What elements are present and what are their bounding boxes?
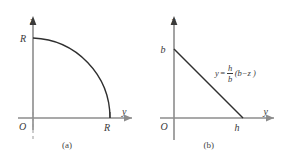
- y-axis-label: y: [122, 107, 126, 117]
- panel-b-graphic: [142, 0, 283, 163]
- linear-function-line: [174, 49, 243, 118]
- y-axis-label: y: [264, 107, 268, 117]
- line-equation-annotation: y = h b (b−z ): [215, 64, 257, 83]
- quarter-circle-arc: [33, 38, 110, 118]
- y-axis-value-h: h: [235, 123, 240, 133]
- equation-trailing-term: (b−z ): [234, 69, 256, 78]
- panel-b-caption: (b): [204, 141, 215, 150]
- panel-b: z b O h y y = h b (b−z ) (b): [142, 0, 284, 163]
- equation-denominator: b: [227, 74, 233, 83]
- z-axis-label: z: [30, 16, 34, 26]
- z-axis-value-b: b: [161, 45, 166, 55]
- z-axis-value-R: R: [20, 34, 26, 44]
- equation-equals-sign: =: [219, 69, 226, 78]
- panel-a: z R O R y (a): [0, 0, 142, 163]
- equation-fraction: h b: [227, 64, 233, 83]
- z-axis-label: z: [172, 16, 176, 26]
- origin-label: O: [161, 122, 168, 132]
- equation-numerator: h: [227, 64, 233, 73]
- panel-a-caption: (a): [62, 141, 72, 150]
- origin-label: O: [19, 122, 26, 132]
- figure-container: z R O R y (a) z b O h y y = h b: [0, 0, 283, 163]
- panel-a-graphic: [0, 0, 141, 163]
- y-axis-value-R: R: [104, 123, 110, 133]
